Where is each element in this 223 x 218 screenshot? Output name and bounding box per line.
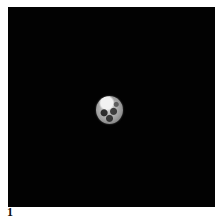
photo-frame bbox=[8, 7, 215, 207]
moon-image bbox=[96, 96, 123, 124]
figure-label: 1 bbox=[7, 206, 13, 218]
